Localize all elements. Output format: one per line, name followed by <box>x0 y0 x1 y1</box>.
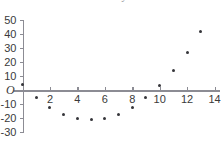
data-point <box>21 83 24 86</box>
y-tick-label: 40 <box>0 29 17 40</box>
data-point <box>62 113 65 116</box>
x-tick-label: 12 <box>175 94 199 105</box>
y-tick-mark <box>20 104 24 105</box>
y-tick-label: -20 <box>0 113 17 124</box>
x-axis-line <box>14 90 220 92</box>
data-point <box>35 96 38 99</box>
y-tick-label: -10 <box>0 99 17 110</box>
y-tick-mark <box>20 20 24 21</box>
y-tick-label: 10 <box>0 71 17 82</box>
y-tick-mark <box>20 62 24 63</box>
x-tick-mark <box>215 87 216 91</box>
x-tick-label: 10 <box>148 94 172 105</box>
y-tick-mark <box>20 48 24 49</box>
y-tick-mark <box>20 132 24 133</box>
x-tick-label: 8 <box>120 94 144 105</box>
x-tick-mark <box>132 87 133 91</box>
x-tick-label: 2 <box>38 94 62 105</box>
x-tick-mark <box>50 87 51 91</box>
x-tick-label: 4 <box>65 94 89 105</box>
y-tick-mark <box>20 34 24 35</box>
y-tick-mark <box>20 76 24 77</box>
data-point <box>131 106 134 109</box>
x-tick-label: 14 <box>203 94 224 105</box>
x-tick-mark <box>187 87 188 91</box>
scatter-plot: x n y - - O 2468101214 5040302010-10-20-… <box>0 0 224 142</box>
data-point <box>48 106 51 109</box>
y-tick-label: 20 <box>0 57 17 68</box>
y-tick-label: 30 <box>0 43 17 54</box>
data-point <box>103 117 106 120</box>
y-tick-label: 50 <box>0 15 17 26</box>
data-point <box>199 30 202 33</box>
x-tick-mark <box>77 87 78 91</box>
data-point <box>90 118 93 121</box>
data-point <box>117 113 120 116</box>
data-point <box>186 51 189 54</box>
data-point <box>172 69 175 72</box>
data-point <box>76 117 79 120</box>
y-tick-label: -30 <box>0 127 17 138</box>
y-tick-mark <box>20 118 24 119</box>
x-tick-mark <box>160 87 161 91</box>
clipped-header-text: x n y - - <box>104 0 224 2</box>
x-tick-mark <box>105 87 106 91</box>
x-tick-label: 6 <box>93 94 117 105</box>
origin-label: O <box>6 84 15 96</box>
